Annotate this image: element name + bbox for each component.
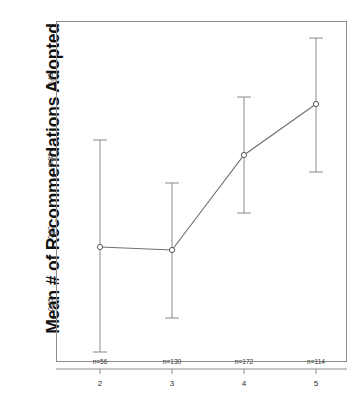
x-axis-line [56, 369, 347, 374]
n-annotation-4: n=114 [296, 358, 336, 365]
x-tick-label-5: 5 [301, 379, 331, 388]
y-tick-label-040: 0.40 [47, 69, 54, 91]
y-tick-label-025: 0.25 [47, 294, 54, 316]
x-tick-label-4: 4 [229, 379, 259, 388]
x-tick-label-3: 3 [157, 379, 187, 388]
chart-figure: Mean # of Recommendations Adopted 0.40 0… [0, 0, 359, 408]
y-tick-label-030: 0.30 [47, 222, 54, 244]
y-tick-label-035: 0.35 [47, 149, 54, 171]
n-annotation-2: n=130 [152, 358, 192, 365]
n-annotation-1: n=56 [80, 358, 120, 365]
x-tick-label-2: 2 [85, 379, 115, 388]
plot-frame [56, 21, 347, 362]
n-annotation-3: n=172 [224, 358, 264, 365]
